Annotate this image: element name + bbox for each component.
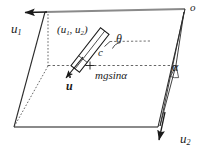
force-label-mgsinalpha: mgsinα <box>95 70 127 81</box>
position-label-u1-u2: (u1, u2) <box>57 24 88 36</box>
angle-label-alpha: α <box>172 61 178 73</box>
inclined-plane-outline <box>14 9 185 127</box>
origin-label-o: o <box>190 2 196 13</box>
center-label-c: c <box>98 47 103 58</box>
axis-label-u2: u2 <box>180 132 191 147</box>
velocity-label-udot: u <box>66 80 73 92</box>
axis-label-u1: u1 <box>11 22 22 37</box>
axis-arrow-u1 <box>25 12 47 13</box>
udot-overdot <box>69 76 71 78</box>
angle-label-theta: θ <box>116 33 122 45</box>
inclined-plane-figure: u1 u2 o (u1, u2) θ c mgsinα α u <box>0 0 205 153</box>
